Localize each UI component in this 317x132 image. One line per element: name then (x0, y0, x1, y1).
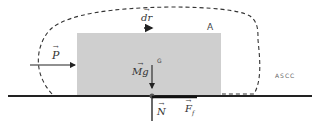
block-label-a: A (207, 23, 213, 32)
center-of-mass-label: G (157, 58, 162, 64)
friction-force-label: Ff (185, 104, 194, 116)
free-body-diagram: P dr A G Mg N Ff ASCC (0, 0, 317, 132)
boundary-tag-label: ASCC (275, 73, 295, 79)
normal-force-label: N (157, 107, 166, 117)
displacement-label: dr (141, 13, 152, 23)
push-force-label: P (52, 50, 59, 61)
weight-label: Mg (132, 67, 149, 77)
block-a (77, 33, 221, 95)
